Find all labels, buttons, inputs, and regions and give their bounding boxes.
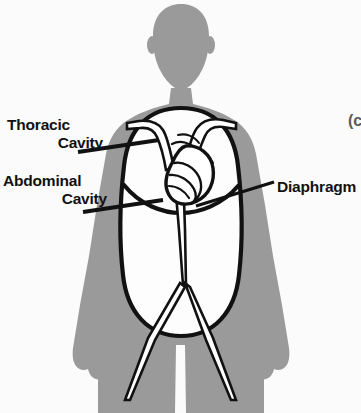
label-thoracic-cavity: Thoracic Cavity — [7, 116, 103, 152]
ear-right — [205, 36, 215, 54]
head-shape — [153, 4, 209, 98]
label-thoracic-cavity-line2: Cavity — [7, 134, 103, 152]
label-thoracic-cavity-line1: Thoracic — [7, 116, 103, 134]
label-abdominal-cavity-line1: Abdominal — [3, 172, 107, 190]
copyright-mark: (c — [348, 112, 361, 130]
label-abdominal-cavity-line2: Cavity — [3, 190, 107, 208]
anatomy-diagram-canvas: Thoracic Cavity Abdominal Cavity Diaphra… — [0, 0, 361, 413]
label-diaphragm: Diaphragm — [277, 178, 356, 196]
label-abdominal-cavity: Abdominal Cavity — [3, 172, 107, 208]
ear-left — [147, 36, 157, 54]
